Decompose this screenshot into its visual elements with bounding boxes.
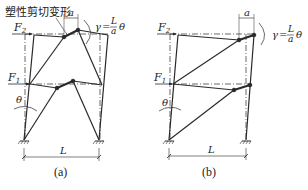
pin-support-right-icon xyxy=(93,141,104,144)
svg-text:L: L xyxy=(287,24,294,34)
plastic-shear-annotation: 塑性剪切变形 xyxy=(5,5,71,19)
shear-angle-arc-icon xyxy=(259,23,265,45)
svg-text:L: L xyxy=(110,16,117,26)
gamma-equation: γ = L a θ xyxy=(272,24,302,44)
eccentric-braced-frame-diagram: 塑性剪切变形 F2 F1 θ a γ = L a θ L (a) xyxy=(0,0,308,190)
link-length-label: a xyxy=(244,7,250,18)
rotation-label: θ xyxy=(16,94,22,105)
pin-support-left-icon xyxy=(163,141,174,144)
svg-text:θ: θ xyxy=(296,29,302,40)
svg-text:γ: γ xyxy=(272,29,278,40)
caption-a: (a) xyxy=(54,165,67,179)
force-label-f1: F1 xyxy=(153,71,166,85)
force-label-f2: F2 xyxy=(157,21,171,35)
pin-support-right-icon xyxy=(240,141,251,144)
pin-support-left-icon xyxy=(18,141,29,144)
force-label-f1: F1 xyxy=(7,71,20,85)
span-label: L xyxy=(207,144,215,155)
rotation-arc-icon xyxy=(14,106,37,111)
svg-text:=: = xyxy=(102,21,110,32)
svg-text:=: = xyxy=(279,29,287,40)
caption-b: (b) xyxy=(202,165,216,179)
svg-text:γ: γ xyxy=(95,21,101,32)
link-length-label: a xyxy=(68,7,74,18)
panel-b xyxy=(155,14,265,160)
force-label-f2: F2 xyxy=(13,21,27,35)
svg-text:a: a xyxy=(111,26,116,36)
span-label: L xyxy=(59,145,67,156)
panel-a xyxy=(8,14,108,161)
svg-text:θ: θ xyxy=(119,21,125,32)
svg-text:a: a xyxy=(288,34,293,44)
rotation-label: θ xyxy=(162,97,168,108)
